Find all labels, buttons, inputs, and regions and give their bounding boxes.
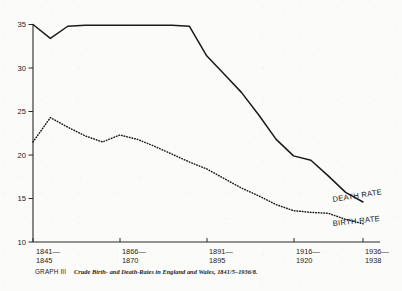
x-tick-label-1-bottom: 1870: [122, 256, 138, 265]
x-tick-label-4-bottom: 1938: [365, 256, 381, 265]
x-tick-label-3-top: 1916—: [296, 247, 320, 256]
birth-rate-label: BIRTH RATE: [332, 214, 380, 228]
y-tick-label-25: 25: [18, 107, 26, 116]
x-tick-label-3-bottom: 1920: [296, 256, 312, 265]
death-rate-line: [33, 25, 363, 202]
y-tick-label-35: 35: [18, 20, 26, 29]
y-tick-label-10: 10: [18, 238, 26, 247]
y-axis-ticks: [29, 25, 34, 243]
y-tick-label-30: 30: [18, 64, 26, 73]
figure-page: 35 30 25 20 15 10 1841— 1845 1866— 1870 …: [0, 0, 402, 291]
x-tick-label-0-bottom: 1845: [36, 256, 52, 265]
death-rate-label: DEATH RATE: [332, 187, 383, 204]
graph-number-tag: GRAPH III: [35, 268, 66, 275]
y-tick-label-15: 15: [18, 194, 26, 203]
x-tick-label-0-top: 1841—: [36, 247, 60, 256]
x-axis-ticks: [33, 238, 363, 242]
y-tick-label-20: 20: [18, 151, 26, 160]
figure-caption: Crude Birth- and Death-Rates in England …: [74, 268, 258, 275]
x-tick-label-4-top: 1936—: [365, 247, 389, 256]
x-tick-label-2-bottom: 1895: [209, 256, 225, 265]
chart-canvas: 35 30 25 20 15 10 1841— 1845 1866— 1870 …: [0, 0, 402, 291]
birth-rate-line: [33, 118, 363, 224]
x-tick-label-1-top: 1866—: [122, 247, 146, 256]
x-tick-label-2-top: 1891—: [209, 247, 233, 256]
